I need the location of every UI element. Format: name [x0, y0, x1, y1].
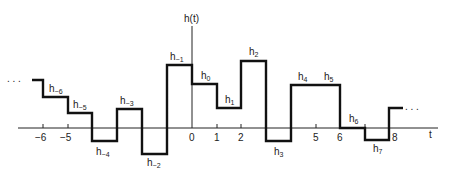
label-h-5: h5: [324, 71, 334, 83]
y-axis-label: h(t): [184, 13, 199, 24]
label-h-3: h3: [274, 146, 284, 158]
label-h-neg3: h−3: [120, 95, 134, 107]
label-h-0: h0: [201, 70, 211, 82]
segment-labels: h−6 h−5 h−4 h−3 h−2 h−1 h0 h1 h2 h3 h4 h…: [49, 46, 383, 169]
staircase-function-diagram: . . . . . . h(t) t −6 −5 0 1 2 5 6 8 h−6…: [0, 0, 449, 177]
x-axis-label: t: [429, 129, 432, 140]
label-h-7: h7: [373, 143, 383, 155]
label-h-neg4: h−4: [96, 146, 110, 158]
label-h-neg1: h−1: [170, 51, 184, 63]
ellipsis-right: . . .: [405, 101, 419, 112]
tick-label-6: 6: [337, 132, 343, 143]
tick-label-neg6: −6: [35, 132, 47, 143]
label-h-neg5: h−5: [73, 99, 87, 111]
tick-label-neg5: −5: [60, 132, 72, 143]
tick-label-1: 1: [214, 132, 220, 143]
label-h-neg2: h−2: [147, 157, 161, 169]
tick-label-2: 2: [238, 132, 244, 143]
tick-label-8: 8: [392, 132, 398, 143]
label-h-6: h6: [349, 113, 359, 125]
tick-label-0: 0: [189, 132, 195, 143]
tick-label-5: 5: [313, 132, 319, 143]
ellipsis-left: . . .: [7, 73, 21, 84]
label-h-neg6: h−6: [49, 83, 63, 95]
x-tick-labels: −6 −5 0 1 2 5 6 8: [35, 132, 398, 143]
label-h-4: h4: [298, 71, 308, 83]
label-h-1: h1: [225, 94, 235, 106]
label-h-2: h2: [249, 46, 259, 58]
